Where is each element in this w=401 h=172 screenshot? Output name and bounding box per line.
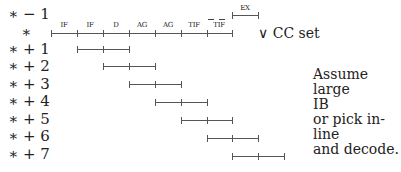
tick: [258, 12, 259, 19]
row-label-plus-3: ∗ + 3: [8, 76, 50, 93]
row-label-plus-2: ∗ + 2: [8, 58, 50, 75]
tick: [181, 30, 182, 37]
main-pipeline-line: [51, 33, 232, 34]
stage-label-ag-1: AG: [129, 21, 155, 29]
row-label-minus-1: ∗ − 1: [8, 6, 50, 23]
row-label-plus-1: ∗ + 1: [8, 41, 50, 58]
stage-label-ex: EX: [232, 4, 258, 12]
tick: [77, 30, 78, 37]
row-label-plus-6: ∗ + 6: [8, 128, 50, 145]
stage-label-tif-2: TIF: [206, 21, 232, 29]
stage-label-ag-2: AG: [155, 21, 181, 29]
row-label-current: ∗: [21, 24, 31, 41]
tick: [207, 30, 208, 37]
stage-label-tif-1: TIF: [181, 21, 207, 29]
continuation-dash: [208, 19, 214, 20]
explanation-note: Assume large IB or pick in-line and deco…: [313, 67, 401, 157]
stage-label-d: D: [103, 21, 129, 29]
cc-set-annotation: ∨ CC set: [258, 25, 320, 42]
tick: [103, 30, 104, 37]
note-line: IB: [313, 97, 401, 112]
continuation-dash: [219, 19, 225, 20]
stage-label-if-2: IF: [77, 21, 103, 29]
row-label-plus-5: ∗ + 5: [8, 111, 50, 128]
row-label-plus-4: ∗ + 4: [8, 93, 50, 110]
ex-segment: [232, 15, 258, 16]
tick: [232, 12, 233, 19]
note-line: Assume large: [313, 67, 401, 97]
note-line: or pick in-line: [313, 112, 401, 142]
tick: [232, 30, 233, 37]
note-line: and decode.: [313, 142, 401, 157]
stage-label-if-1: IF: [51, 21, 77, 29]
tick: [155, 30, 156, 37]
tick: [129, 30, 130, 37]
row-label-plus-7: ∗ + 7: [8, 146, 50, 163]
tick: [51, 30, 52, 37]
